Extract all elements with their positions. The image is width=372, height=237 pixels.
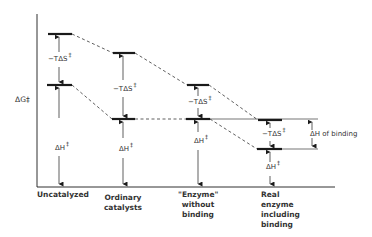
y-axis-label: ΔG‡ xyxy=(15,96,30,104)
dashed-connectors xyxy=(72,34,258,149)
category-enzyme-without-binding: "Enzyme" without binding xyxy=(178,190,218,220)
dh-label-real-enzyme: ΔH‡ xyxy=(266,164,280,171)
category-real-enzyme: Real enzyme including binding xyxy=(261,190,300,230)
tds-label-real-enzyme: −TΔS‡ xyxy=(262,131,285,138)
energy-levels xyxy=(47,34,282,149)
category-ordinary-catalysts: Ordinary catalysts xyxy=(103,193,143,213)
dh-label-uncatalyzed: ΔH‡ xyxy=(55,145,69,152)
binding-label: ΔH of binding xyxy=(310,131,357,138)
dh-label-ordinary: ΔH‡ xyxy=(119,146,133,153)
tds-label-uncatalyzed: −TΔS‡ xyxy=(48,56,71,63)
tds-label-enzyme-without: −TΔS‡ xyxy=(188,99,211,106)
category-uncatalyzed: Uncatalyzed xyxy=(37,190,89,200)
dh-label-enzyme-without: ΔH‡ xyxy=(194,138,208,145)
tds-label-ordinary: −TΔS‡ xyxy=(113,86,136,93)
